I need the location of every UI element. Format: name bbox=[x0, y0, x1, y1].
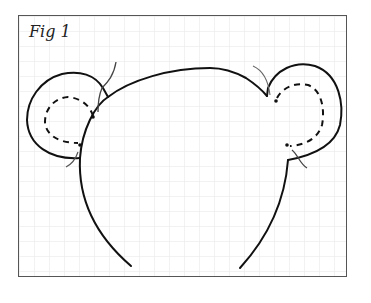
right-ear-dot-top bbox=[274, 99, 278, 103]
left-ear-dot-top bbox=[91, 115, 95, 119]
figure-label: Fig 1 bbox=[29, 22, 71, 41]
pattern-drawing bbox=[0, 0, 371, 303]
left-ear-dot-bottom bbox=[78, 143, 82, 147]
right-ear-dot-bottom bbox=[285, 143, 289, 147]
